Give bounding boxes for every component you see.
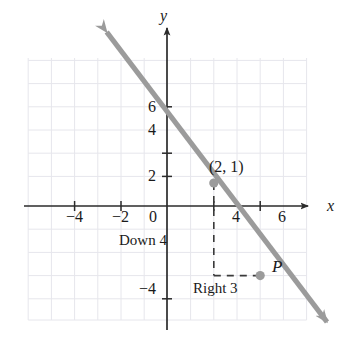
right-3-label: Right 3 (193, 281, 238, 296)
y-tick-label-neg4: −4 (139, 281, 156, 297)
plotted-line (107, 32, 327, 322)
x-tick-label-neg2: −2 (112, 209, 129, 225)
x-tick-label-6: 6 (278, 209, 286, 225)
y-tick-label-6: 6 (148, 99, 156, 115)
point-coordinate-label: (2, 1) (209, 159, 244, 175)
y-tick-label-4: 4 (148, 122, 156, 138)
x-axis-label: x (327, 198, 334, 214)
down-4-label: Down 4 (119, 233, 167, 248)
graph-canvas (0, 0, 353, 354)
x-tick-label-4: 4 (232, 209, 240, 225)
point-p-label: P (272, 258, 282, 275)
coordinate-plane-figure: y x 0 −4 −2 4 6 6 4 2 −4 (2, 1) P Down 4… (0, 0, 353, 354)
y-tick-label-2: 2 (148, 168, 156, 184)
point-2-1 (209, 178, 218, 187)
x-tick-label-neg4: −4 (66, 209, 83, 225)
point-p (256, 271, 265, 280)
origin-label: 0 (149, 209, 157, 225)
axis-lines (24, 28, 308, 330)
y-axis-label: y (160, 8, 167, 24)
